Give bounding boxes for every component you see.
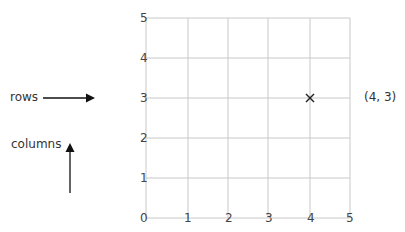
columns-label: columns bbox=[11, 137, 61, 151]
point-label: (4, 3) bbox=[364, 90, 396, 104]
grid-lines bbox=[146, 18, 350, 218]
x-tick: 1 bbox=[184, 211, 192, 225]
y-tick: 3 bbox=[140, 91, 148, 105]
y-tick: 1 bbox=[140, 171, 148, 185]
x-tick: 2 bbox=[225, 211, 233, 225]
rows-label: rows bbox=[10, 90, 38, 104]
y-tick: 2 bbox=[140, 131, 148, 145]
y-tick: 0 bbox=[140, 211, 148, 225]
y-tick: 5 bbox=[140, 11, 148, 25]
x-tick: 5 bbox=[346, 211, 354, 225]
x-tick: 3 bbox=[265, 211, 273, 225]
y-tick: 4 bbox=[140, 51, 148, 65]
columns-arrow-icon bbox=[66, 143, 75, 193]
grid-diagram bbox=[0, 0, 405, 232]
x-tick: 4 bbox=[307, 211, 315, 225]
rows-arrow-icon bbox=[43, 94, 95, 103]
